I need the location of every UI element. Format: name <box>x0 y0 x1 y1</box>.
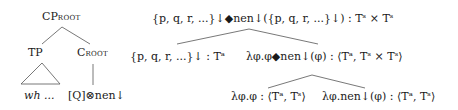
root-subscript: ROOT <box>85 50 108 58</box>
root-subscript: ROOT <box>58 14 81 22</box>
leaf-nen: λφ.nen↓(φ) : ⟨Tᵃ, Tˢ⟩ <box>322 90 435 103</box>
right-right-child: λφ.φ◆nen↓(φ) : ⟨Tᵃ, Tˢ × Tˢ⟩ <box>246 50 403 63</box>
c-root-node: CROOT <box>77 46 108 61</box>
cp-root-node: CPROOT <box>42 10 80 25</box>
right-root-node: {p, q, r, ...}↓◆nen↓({p, q, r, ...}↓) : … <box>152 12 394 25</box>
tp-leaf: wh ... <box>24 89 55 102</box>
tp-node: TP <box>28 46 43 59</box>
cp-label: CP <box>42 10 58 23</box>
right-left-child: {p, q, r, ...}↓ : Tᵃ <box>130 50 225 63</box>
leaf-identity: λφ.φ : ⟨Tᵃ, Tˢ⟩ <box>231 90 306 103</box>
c-leaf: [Q]⊗nen↓ <box>68 89 125 102</box>
